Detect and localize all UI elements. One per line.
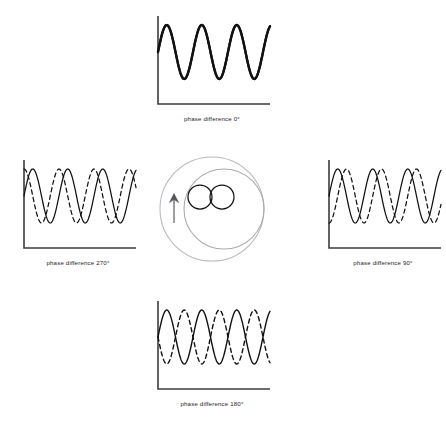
wave-plot-phase-90 bbox=[319, 158, 446, 258]
wave-dashed-phase-90 bbox=[329, 169, 441, 223]
plot-axes bbox=[24, 160, 136, 248]
wave-solid-phase-0 bbox=[24, 169, 136, 223]
panel-phase-270: phase difference 270° bbox=[14, 158, 142, 276]
direction-arrow-icon bbox=[169, 194, 178, 224]
wave-solid-phase-0 bbox=[158, 310, 270, 364]
source-circle-right bbox=[210, 185, 234, 209]
plot-axes bbox=[158, 16, 270, 104]
plot-axes bbox=[158, 301, 270, 389]
wave-plot-phase-0 bbox=[148, 14, 276, 114]
wave-dashed-phase-270 bbox=[24, 169, 136, 223]
panel-phase-90: phase difference 90° bbox=[319, 158, 446, 276]
caption-phase-0: phase difference 0° bbox=[148, 115, 276, 122]
caption-phase-90: phase difference 90° bbox=[319, 259, 446, 266]
wave-solid-phase-0 bbox=[329, 169, 441, 223]
wave-plot-phase-180 bbox=[148, 299, 276, 399]
wave-source-diagram bbox=[152, 152, 276, 270]
panel-phase-0: phase difference 0° bbox=[148, 14, 276, 132]
caption-phase-180: phase difference 180° bbox=[148, 400, 276, 407]
source-diagram-svg bbox=[152, 152, 276, 270]
source-circle-left bbox=[188, 185, 212, 209]
wave-plot-phase-270 bbox=[14, 158, 142, 258]
outer-wavefront-circle bbox=[160, 157, 264, 261]
wave-solid-phase-0 bbox=[158, 25, 270, 79]
panel-phase-180: phase difference 180° bbox=[148, 299, 276, 417]
caption-phase-270: phase difference 270° bbox=[14, 259, 142, 266]
